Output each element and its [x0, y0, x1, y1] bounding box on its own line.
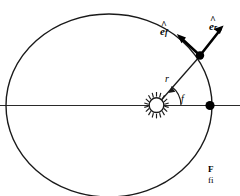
perihelion-point-marker [205, 101, 214, 110]
er-hat-glyph: ^ [210, 15, 216, 25]
orbit-diagram-svg [0, 0, 240, 196]
caption-body: fi [208, 175, 240, 186]
caption-heading: F [208, 164, 240, 175]
sun-disc-icon [149, 98, 164, 113]
radius-label: r [165, 74, 169, 84]
figure-caption: F fi [208, 164, 240, 186]
ef-hat-glyph: ^ [161, 20, 167, 30]
unit-vector-ef-arrow [177, 34, 200, 55]
unit-vector-er-label: ^ er [209, 21, 217, 32]
true-anomaly-label: f [181, 94, 184, 104]
figure-canvas: ^ ef ^ er r f F fi [0, 0, 240, 196]
unit-vector-ef-label: ^ ef [160, 26, 168, 37]
